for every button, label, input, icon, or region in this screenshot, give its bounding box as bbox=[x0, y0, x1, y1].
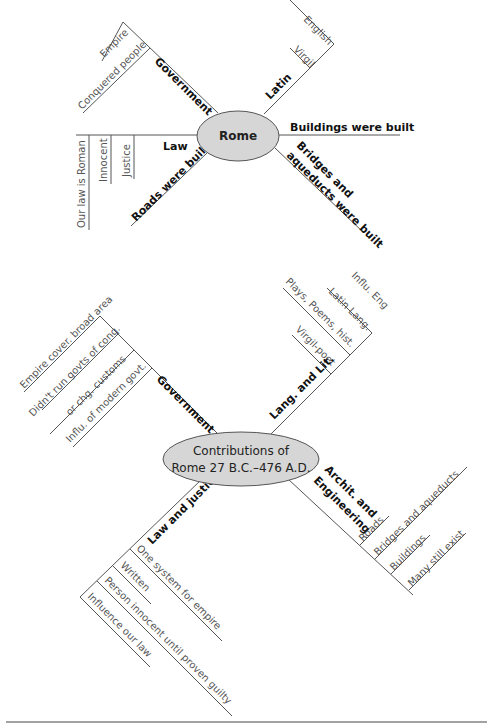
map1-gov-label: Government bbox=[152, 55, 215, 118]
map2-center-ellipse bbox=[163, 432, 319, 486]
map2-lang-detail-0: Influ. Eng bbox=[350, 270, 391, 311]
map1-latin-label: Latin bbox=[263, 71, 294, 102]
map1-center-label: Rome bbox=[219, 129, 257, 143]
map1-law-detail-innocent: Innocent bbox=[98, 138, 109, 182]
map2-gov-label: Government bbox=[154, 373, 217, 436]
map1-law-detail-ourlaw: Our law is Roman bbox=[76, 140, 87, 228]
map1-bridges-label2: aqueducts were built bbox=[284, 149, 386, 251]
map1-latin-detail-english: English bbox=[302, 14, 335, 47]
map2-lang-label: Lang. and Lit. bbox=[267, 353, 337, 423]
map1-buildings-label: Buildings were built bbox=[290, 121, 414, 134]
map1-latin-detail-virgil: Virgil bbox=[292, 44, 318, 70]
map2-center-line1: Contributions of bbox=[193, 444, 290, 458]
map2: Empire cover. broad area Didn't run govt… bbox=[18, 270, 467, 716]
map2-law-detail-3: Influence our law bbox=[86, 591, 155, 660]
map1-law-label: Law bbox=[163, 140, 188, 153]
map2-center-line2: Rome 27 B.C.–476 A.D. bbox=[172, 461, 311, 475]
mind-maps: Empire Conquered people Government Engli… bbox=[0, 0, 495, 727]
map1-roads-label: Roads were built bbox=[129, 141, 212, 224]
map2-law-detail-2: Person innocent until proven guilty bbox=[103, 575, 234, 706]
map1: Empire Conquered people Government Engli… bbox=[76, 0, 415, 251]
map1-law-detail-justice: Justice bbox=[121, 144, 132, 178]
